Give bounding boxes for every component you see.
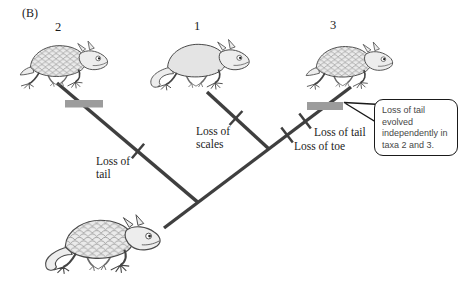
figure-canvas: (B) 2 1 3 Loss of tail Loss of scales Lo… bbox=[0, 0, 461, 289]
tail-loss-highlight-bars bbox=[65, 100, 343, 110]
taxon-3-lizard bbox=[296, 35, 399, 91]
callout-box: Loss of tail evolved independently in ta… bbox=[374, 99, 458, 156]
lizard-drawing bbox=[296, 35, 399, 91]
loss-of-scales-label: Loss of scales bbox=[196, 125, 246, 151]
highlight-bar-taxon3 bbox=[307, 102, 343, 110]
loss-of-tail-label-branch3: Loss of tail bbox=[314, 126, 366, 139]
lizard-drawing bbox=[146, 32, 256, 92]
taxon-1-lizard bbox=[146, 32, 256, 92]
callout-text: Loss of tail evolved independently in ta… bbox=[382, 105, 448, 150]
taxon-3-number: 3 bbox=[321, 19, 345, 32]
panel-label: (B) bbox=[22, 7, 38, 20]
ancestor-lizard bbox=[40, 206, 168, 276]
taxon-2-number: 2 bbox=[46, 21, 70, 34]
taxon-2-lizard bbox=[10, 34, 114, 91]
highlight-bar-taxon2 bbox=[65, 100, 103, 108]
lizard-drawing bbox=[40, 206, 168, 276]
loss-of-tail-label-branch2: Loss of tail bbox=[96, 155, 142, 181]
loss-of-toe-label: Loss of toe bbox=[294, 140, 345, 153]
lizard-drawing bbox=[10, 34, 114, 91]
